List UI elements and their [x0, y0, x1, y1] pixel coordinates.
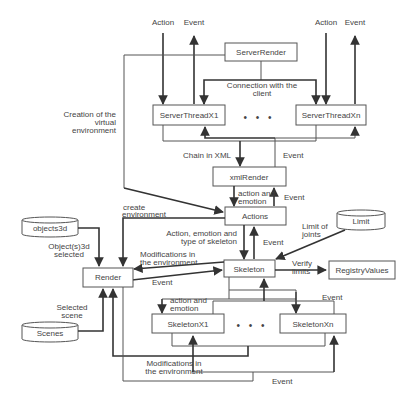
label-objects-selected-2: selected — [54, 250, 84, 259]
label-event-skeleton: Event — [263, 238, 284, 247]
label-verify-2: limits — [292, 267, 310, 276]
datastore-limit: Limit — [337, 210, 385, 230]
ellipsis-threads: • • • — [243, 112, 274, 123]
event-to-thread-x1 — [205, 127, 275, 138]
label-connection-2: client — [253, 89, 272, 98]
node-skeleton-x1-label: SkeletonX1 — [168, 320, 209, 329]
label-creation-3: environment — [72, 126, 117, 135]
datastore-limit-label: Limit — [353, 217, 371, 226]
label-selected-scene-2: scene — [61, 311, 83, 320]
label-create-env-2: environment — [122, 210, 167, 219]
datastore-objects3d-label: objects3d — [33, 224, 67, 233]
node-registry-values-label: RegistryValues — [335, 266, 388, 275]
label-event-render: Event — [152, 278, 173, 287]
label-event-xml: Event — [283, 151, 304, 160]
datastore-objects3d: objects3d — [22, 217, 78, 237]
datastore-scenes-label: Scenes — [37, 329, 64, 338]
architecture-diagram: Action Event Action Event ServerRender C… — [0, 0, 414, 403]
node-skeleton-label: Skeleton — [233, 265, 264, 274]
label-action-emotion-2: emotion — [238, 197, 266, 206]
label-action-1: Action — [152, 18, 174, 27]
node-xml-render-label: xmlRender — [230, 173, 269, 182]
label-event-bottom: Event — [272, 377, 293, 386]
node-actions-label: Actions — [242, 212, 268, 221]
label-action-2: Action — [315, 18, 337, 27]
label-skel-action-emotion-2: emotion — [170, 304, 198, 313]
event-xml-up — [275, 127, 355, 167]
label-action-emotion-type-2: type of skeleton — [181, 237, 237, 246]
label-event-2: Event — [345, 18, 366, 27]
skeleton-bus-2 — [229, 290, 296, 292]
label-event-actions: Event — [284, 193, 305, 202]
node-server-render-label: ServerRender — [236, 48, 286, 57]
render-event-arrow — [132, 270, 222, 280]
modifications-bus — [172, 333, 325, 346]
node-server-thread-xn-label: ServerThreadXn — [302, 111, 361, 120]
node-render-label: Render — [95, 273, 122, 282]
label-limit-joints-2: joints — [301, 230, 321, 239]
skeleton-event-bus — [213, 301, 334, 314]
node-server-thread-x1-label: ServerThreadX1 — [160, 111, 219, 120]
label-event-1: Event — [184, 18, 205, 27]
ellipsis-skeletons: • • • — [236, 320, 267, 331]
node-skeleton-xn-label: SkeletonXn — [293, 320, 334, 329]
label-modifications-2: the environment — [140, 258, 198, 267]
datastore-scenes: Scenes — [22, 322, 78, 342]
label-chain-xml: Chain in XML — [183, 151, 232, 160]
label-event-skel-xn: Event — [322, 293, 343, 302]
